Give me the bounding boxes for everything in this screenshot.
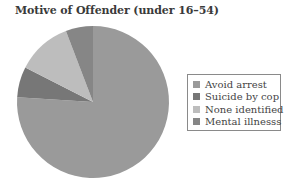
legend-swatch: [193, 93, 200, 100]
legend-swatch: [193, 81, 200, 88]
legend-label: Mental illnesss: [205, 116, 281, 127]
legend-label: None identified: [205, 104, 283, 115]
legend-swatch: [193, 118, 200, 125]
legend-label: Avoid arrest: [205, 79, 267, 90]
legend-item-mental-illness: Mental illnesss: [193, 116, 280, 129]
legend-item-avoid-arrest: Avoid arrest: [193, 78, 280, 91]
legend-item-none-identified: None identified: [193, 103, 280, 116]
legend: Avoid arrest Suicide by cop None identif…: [187, 74, 281, 131]
legend-swatch: [193, 106, 200, 113]
legend-label: Suicide by cop: [205, 91, 279, 102]
legend-item-suicide-by-cop: Suicide by cop: [193, 91, 280, 104]
